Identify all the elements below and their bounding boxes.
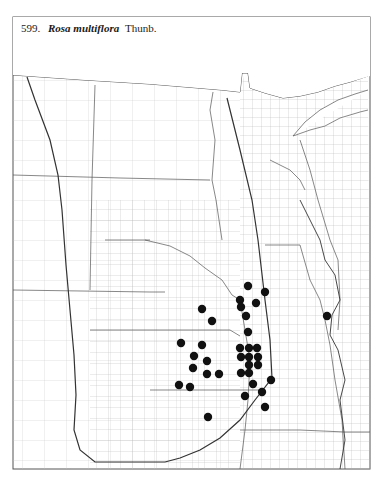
occurrence-dot <box>323 312 331 320</box>
occurrence-dot <box>236 344 244 352</box>
occurrence-dot <box>267 376 275 384</box>
occurrence-dot <box>186 383 194 391</box>
occurrence-dot <box>175 381 183 389</box>
occurrence-dot <box>253 344 261 352</box>
occurrence-dot <box>245 353 253 361</box>
occurrence-dot <box>237 369 245 377</box>
occurrence-dot <box>237 353 245 361</box>
occurrence-dot <box>177 339 185 347</box>
occurrence-dot <box>245 369 253 377</box>
occurrence-dot <box>208 317 216 325</box>
occurrence-dot <box>244 328 252 336</box>
occurrence-dot <box>190 352 198 360</box>
occurrence-dot <box>254 353 262 361</box>
occurrence-dot <box>198 341 206 349</box>
occurrence-dot <box>215 370 223 378</box>
figure-number: 599. <box>21 22 40 34</box>
occurrence-dot <box>244 282 252 290</box>
occurrence-dot <box>245 361 253 369</box>
occurrence-dot <box>261 288 269 296</box>
occurrence-dot <box>242 312 250 320</box>
occurrence-dot <box>258 388 266 396</box>
distribution-map <box>0 0 378 490</box>
occurrence-dot <box>245 344 253 352</box>
species-name: Rosa multiflora <box>48 22 119 34</box>
occurrence-dot <box>249 380 257 388</box>
occurrence-dot <box>261 403 269 411</box>
occurrence-dot <box>254 361 262 369</box>
land-area-central <box>90 200 240 470</box>
occurrence-dot <box>203 370 211 378</box>
occurrence-dot <box>241 392 249 400</box>
occurrence-dot <box>198 305 206 313</box>
occurrence-dot <box>204 413 212 421</box>
occurrence-dot <box>189 364 197 372</box>
figure-caption: 599. Rosa multiflora Thunb. <box>21 22 156 34</box>
occurrence-dot <box>237 303 245 311</box>
species-authority: Thunb. <box>125 22 156 34</box>
occurrence-dot <box>252 299 260 307</box>
occurrence-dot <box>203 357 211 365</box>
